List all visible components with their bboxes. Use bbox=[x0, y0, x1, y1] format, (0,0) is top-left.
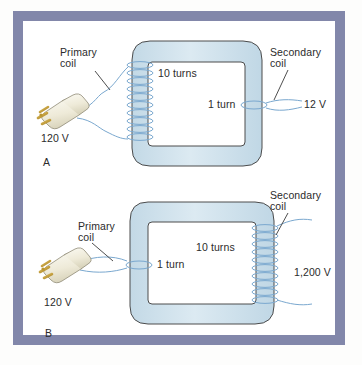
panel-a-secondary-turns-label: 1 turn bbox=[208, 99, 235, 111]
panel-b-letter: B bbox=[45, 327, 52, 339]
panel-b-primary-coil-label-line2: coil bbox=[78, 232, 94, 244]
panel-a-primary-turns-label: 10 turns bbox=[158, 68, 197, 80]
panel-a-secondary-coil-label-line2: coil bbox=[270, 58, 286, 70]
panel-b-secondary-coil-label-line2: coil bbox=[270, 201, 286, 213]
panel-a-secondary-leader bbox=[274, 70, 288, 100]
figure-stage: Primary coil 10 turns Secondary coil 1 t… bbox=[0, 0, 362, 365]
panel-a-input-voltage: 120 V bbox=[41, 133, 69, 145]
panel-b-primary-turns-label: 1 turn bbox=[157, 259, 184, 271]
panel-a bbox=[38, 41, 302, 166]
panel-b-secondary-turns-label: 10 turns bbox=[196, 242, 235, 254]
panel-a-primary-coil-label-line2: coil bbox=[60, 58, 76, 70]
panel-b-output-voltage: 1,200 V bbox=[294, 267, 331, 279]
panel-b-plug bbox=[40, 248, 91, 283]
panel-b-input-voltage: 120 V bbox=[44, 297, 72, 309]
panel-a-plug bbox=[38, 94, 89, 129]
panel-b-secondary-leader bbox=[276, 213, 288, 235]
panel-a-primary-leader bbox=[95, 71, 110, 90]
panel-a-letter: A bbox=[43, 156, 50, 168]
panel-b-core bbox=[130, 202, 274, 324]
panel-a-output-voltage: 12 V bbox=[304, 99, 326, 111]
